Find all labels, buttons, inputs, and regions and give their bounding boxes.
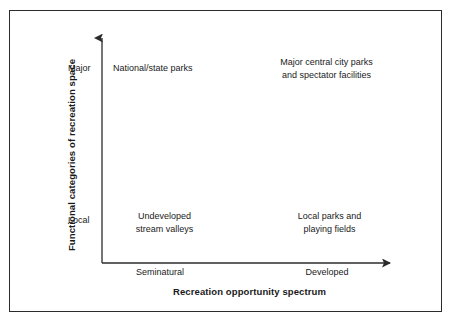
quadrant-label-bottom-right: Local parks and playing fields [272, 210, 387, 235]
figure-root: Functional categories of recreation spac… [0, 0, 452, 322]
x-tick-label-seminatural: Seminatural [110, 267, 210, 277]
quadrant-label-bottom-left: Undeveloped stream valleys [112, 210, 217, 235]
y-tick-label-major: Major [68, 63, 116, 73]
y-tick-label-local: Local [68, 215, 116, 225]
y-axis-title: Functional categories of recreation spac… [66, 40, 77, 270]
x-tick-label-developed: Developed [277, 267, 377, 277]
quadrant-label-top-right: Major central city parks and spectator f… [254, 56, 399, 81]
quadrant-label-top-left: National/state parks [113, 62, 213, 75]
x-axis-title: Recreation opportunity spectrum [101, 286, 398, 297]
